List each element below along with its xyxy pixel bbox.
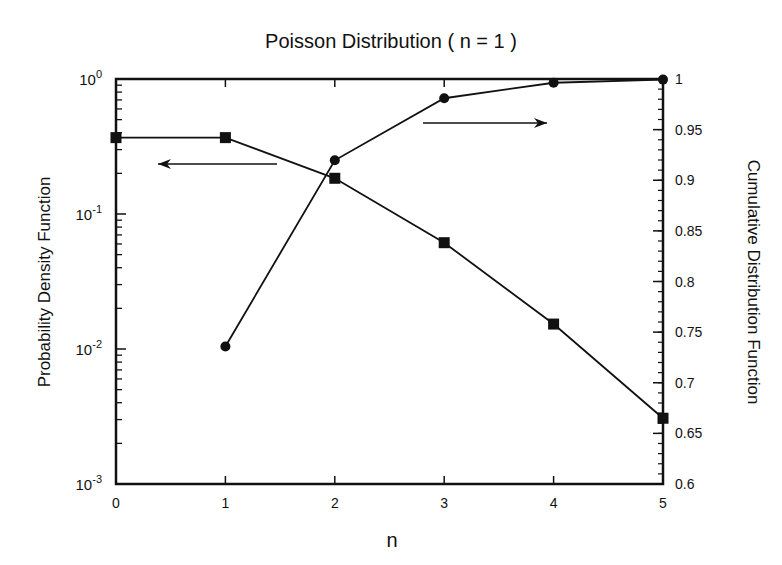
y-right-tick-label: 0.95 [675,122,702,138]
pdf-line [116,138,663,419]
cdf-marker [220,342,230,352]
y-right-tick-label: 0.7 [675,375,695,391]
series-layer [111,75,669,424]
pdf-marker [548,319,559,330]
pdf-marker [658,413,669,424]
cdf-marker [549,78,559,88]
x-tick-label: 2 [331,495,339,511]
cdf-marker [439,93,449,103]
chart-title: Poisson Distribution ( n = 1 ) [265,30,517,52]
x-tick-label: 3 [440,495,448,511]
axes: 01234510010-110-210-30.60.650.70.750.80.… [76,68,703,511]
y-left-tick-label: 10-1 [76,203,102,223]
annotation-arrows [158,118,547,169]
x-tick-label: 0 [112,495,120,511]
x-axis-label: n [386,529,397,551]
x-tick-label: 4 [550,495,558,511]
y-right-tick-label: 0.8 [675,274,695,290]
cdf-line [225,80,663,347]
x-tick-label: 1 [222,495,230,511]
y-left-tick-label: 100 [79,68,102,88]
y-right-tick-label: 0.65 [675,425,702,441]
y-left-tick-label: 10-3 [76,473,102,493]
y-right-tick-label: 0.75 [675,324,702,340]
y-axis-left-label: Probability Density Function [35,177,54,388]
y-right-tick-label: 1 [675,71,683,87]
x-tick-label: 5 [659,495,667,511]
pdf-marker [111,132,122,143]
plot-frame [116,79,663,484]
poisson-chart: Poisson Distribution ( n = 1 ) 012345100… [0,0,782,565]
y-right-tick-label: 0.85 [675,223,702,239]
y-right-tick-label: 0.9 [675,172,695,188]
cdf-marker [330,155,340,165]
pdf-marker [220,132,231,143]
pdf-marker [329,173,340,184]
cdf-marker [658,75,668,85]
y-right-tick-label: 0.6 [675,476,695,492]
y-left-tick-label: 10-2 [76,338,102,358]
y-axis-right-label: Cumulative Distribution Function [744,160,763,405]
pdf-marker [439,237,450,248]
